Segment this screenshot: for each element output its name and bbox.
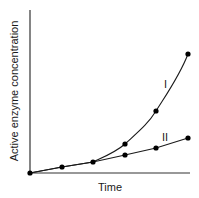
series-I-point <box>122 141 127 146</box>
series-I-line <box>30 54 188 173</box>
series-II-point <box>185 135 190 140</box>
data-point <box>27 170 32 175</box>
series-I-label: I <box>164 78 167 90</box>
series-I-point <box>153 108 158 113</box>
series-II-line <box>30 138 188 173</box>
series-II-point <box>122 152 127 157</box>
data-point <box>90 159 95 164</box>
x-axis-label: Time <box>98 181 122 193</box>
data-point <box>59 164 64 169</box>
chart: I II Time Active enzyme concentration <box>0 0 199 198</box>
series-II-label: II <box>162 131 168 143</box>
y-axis-label: Active enzyme concentration <box>8 21 20 162</box>
series-II-point <box>153 145 158 150</box>
series-I-point <box>185 51 190 56</box>
